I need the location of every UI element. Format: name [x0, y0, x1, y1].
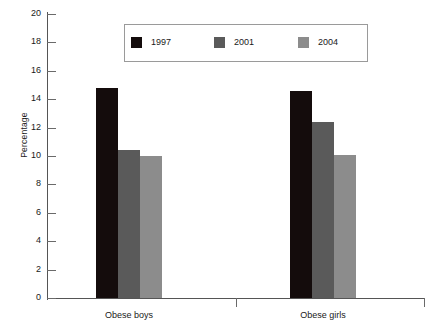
- legend-label: 2001: [234, 37, 254, 48]
- legend-swatch-icon: [298, 37, 309, 48]
- legend: 199720012004: [124, 24, 368, 62]
- bar: [312, 122, 334, 298]
- legend-item[interactable]: 1997: [131, 37, 171, 48]
- y-tick-mark: [47, 298, 56, 299]
- legend-swatch-icon: [131, 37, 142, 48]
- bar: [96, 88, 118, 298]
- legend-item[interactable]: 2004: [298, 37, 338, 48]
- x-axis-group-label: Obese boys: [79, 310, 179, 320]
- bar: [118, 150, 140, 298]
- bar-chart: Percentage 20181614121086420 Obese boysO…: [0, 0, 438, 333]
- legend-item[interactable]: 2001: [214, 37, 254, 48]
- x-axis-group-label: Obese girls: [273, 310, 373, 320]
- x-tick-mark: [424, 298, 425, 307]
- bar: [334, 155, 356, 298]
- legend-label: 1997: [151, 37, 171, 48]
- legend-swatch-icon: [214, 37, 225, 48]
- bar: [290, 91, 312, 298]
- legend-label: 2004: [318, 37, 338, 48]
- x-tick-mark: [236, 298, 237, 307]
- bar: [140, 156, 162, 298]
